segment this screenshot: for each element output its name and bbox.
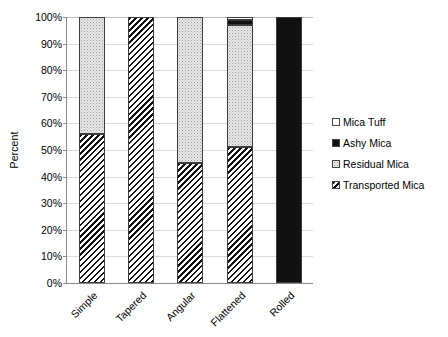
legend-swatch-mica-tuff — [332, 118, 340, 126]
x-axis-tick-label-angular: Angular — [164, 289, 198, 323]
y-axis-tick-label: 20% — [22, 223, 62, 237]
x-label-slot-simple: Simple — [66, 283, 115, 337]
legend-item-transported-mica[interactable]: Transported Mica — [332, 175, 446, 195]
legend-swatch-ashy-mica — [332, 139, 340, 147]
legend-label-mica-tuff: Mica Tuff — [343, 116, 385, 128]
y-axis-tick-label: 50% — [22, 143, 62, 157]
bar-segment-simple-transported-mica[interactable] — [79, 134, 105, 283]
legend-swatch-transported-mica — [332, 181, 340, 189]
x-axis-tick-label-flattened: Flattened — [208, 289, 247, 328]
x-label-slot-angular: Angular — [165, 283, 214, 337]
x-label-slot-rolled: Rolled — [264, 283, 313, 337]
bars-layer — [67, 17, 313, 283]
y-axis-tick-label: 70% — [22, 90, 62, 104]
y-axis-tick-label: 100% — [22, 10, 62, 24]
legend-item-mica-tuff[interactable]: Mica Tuff — [332, 112, 446, 132]
legend-label-ashy-mica: Ashy Mica — [343, 137, 391, 149]
bar-segment-rolled-ashy-mica[interactable] — [276, 17, 302, 283]
legend-item-residual-mica[interactable]: Residual Mica — [332, 154, 446, 174]
bar-stack-rolled[interactable] — [276, 17, 302, 283]
bar-slot-simple — [67, 17, 116, 283]
plot-area — [66, 17, 313, 283]
bar-segment-flattened-ashy-mica[interactable] — [227, 20, 253, 25]
legend-swatch-residual-mica — [332, 160, 340, 168]
y-axis-tick-label: 40% — [22, 170, 62, 184]
legend-label-transported-mica: Transported Mica — [343, 179, 424, 191]
y-axis-tick-label: 0% — [22, 276, 62, 290]
bar-segment-flattened-transported-mica[interactable] — [227, 147, 253, 283]
bar-slot-tapered — [116, 17, 165, 283]
bar-stack-flattened[interactable] — [227, 17, 253, 283]
legend-label-residual-mica: Residual Mica — [343, 158, 409, 170]
chart-legend: Mica TuffAshy MicaResidual MicaTransport… — [332, 112, 446, 196]
y-axis-tick-label: 30% — [22, 196, 62, 210]
bar-segment-tapered-transported-mica[interactable] — [128, 17, 154, 283]
bar-segment-simple-residual-mica[interactable] — [79, 17, 105, 134]
bar-slot-rolled — [265, 17, 314, 283]
bar-segment-flattened-mica-tuff[interactable] — [227, 17, 253, 20]
bar-stack-tapered[interactable] — [128, 17, 154, 283]
x-label-slot-tapered: Tapered — [115, 283, 164, 337]
legend-item-ashy-mica[interactable]: Ashy Mica — [332, 133, 446, 153]
x-axis-tick-label-simple: Simple — [68, 289, 99, 320]
x-axis-tick-label-rolled: Rolled — [267, 289, 297, 319]
bar-segment-angular-residual-mica[interactable] — [177, 17, 203, 163]
x-label-slot-flattened: Flattened — [214, 283, 263, 337]
y-axis-tick-label: 60% — [22, 116, 62, 130]
bar-stack-simple[interactable] — [79, 17, 105, 283]
x-axis-tick-labels: SimpleTaperedAngularFlattenedRolled — [66, 283, 313, 337]
y-axis-tick-label: 90% — [22, 37, 62, 51]
bar-slot-flattened — [215, 17, 264, 283]
bar-segment-angular-transported-mica[interactable] — [177, 163, 203, 283]
bar-segment-flattened-residual-mica[interactable] — [227, 25, 253, 147]
y-axis-title: Percent — [6, 17, 22, 283]
y-axis-tick-label: 10% — [22, 249, 62, 263]
y-axis-tick-label: 80% — [22, 63, 62, 77]
bar-slot-angular — [166, 17, 215, 283]
bar-stack-angular[interactable] — [177, 17, 203, 283]
y-axis-tick-labels: 0%10%20%30%40%50%60%70%80%90%100% — [22, 17, 62, 283]
x-axis-tick-label-tapered: Tapered — [113, 289, 148, 324]
stacked-bar-chart: Percent 0%10%20%30%40%50%60%70%80%90%100… — [0, 0, 448, 337]
